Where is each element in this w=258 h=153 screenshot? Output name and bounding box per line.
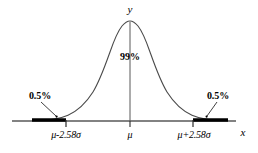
normal-distribution-figure: y 99% 0.5% 0.5% μ-2.58σ μ μ+2.58σ x: [0, 0, 258, 153]
x-tick-label-lower-bound: μ-2.58σ: [51, 130, 80, 140]
right-tail-percent-label: 0.5%: [207, 91, 229, 101]
left-tail-leader-dot: [56, 116, 58, 118]
left-tail-leader-line: [41, 102, 56, 116]
central-area-percent-label: 99%: [120, 52, 140, 62]
x-tick-label-mean: μ: [128, 130, 133, 140]
right-tail-leader-dot: [206, 116, 208, 118]
y-axis-label: y: [128, 4, 133, 15]
x-axis-label: x: [241, 127, 246, 138]
left-tail-percent-label: 0.5%: [29, 91, 51, 101]
x-tick-label-upper-bound: μ+2.58σ: [178, 130, 211, 140]
right-tail-leader-line: [207, 102, 217, 116]
